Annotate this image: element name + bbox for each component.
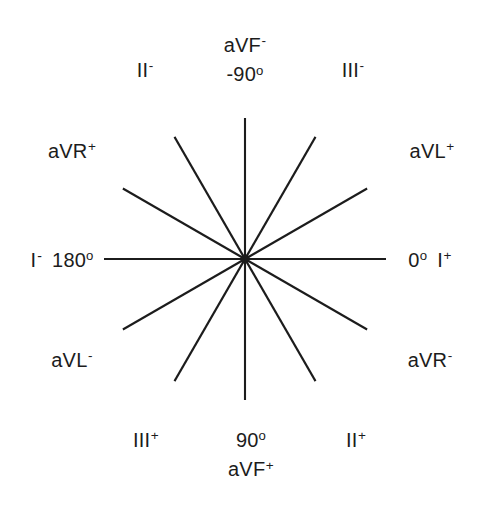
label-ii-positive-lead: II — [346, 429, 358, 451]
label-i-negative-lead: I — [30, 249, 36, 271]
label-avl-negative-sign: - — [87, 348, 92, 363]
label-i-negative-180: I-180o — [30, 249, 93, 271]
label-ii-negative-sign: - — [148, 58, 153, 73]
label-ii-negative-lead: II — [137, 59, 149, 81]
angle-mark-minus90-value: -90 — [226, 64, 256, 86]
label-i-positive-lead: I — [437, 249, 443, 271]
label-iii-negative-sign: - — [359, 58, 364, 73]
label-avl-negative: aVL- — [51, 349, 92, 371]
angle-mark-0-value: 0 — [408, 249, 419, 271]
label-i-positive-sign: + — [443, 248, 452, 263]
label-i-negative: I- — [30, 249, 42, 271]
label-avr-negative-lead: aVR — [408, 349, 448, 371]
angle-mark-minus90-unit: o — [256, 63, 264, 78]
angle-mark-0-unit: o — [420, 248, 428, 263]
label-iii-positive: III+ — [133, 429, 159, 451]
label-avf-negative: aVF- -90o — [224, 34, 267, 86]
label-avr-negative-sign: - — [447, 348, 452, 363]
label-avr-negative: aVR- — [408, 349, 453, 371]
label-avf-positive-lead: aVF — [228, 459, 265, 481]
angle-mark-90-value: 90 — [236, 429, 259, 451]
label-avf-negative-sign: - — [261, 34, 266, 49]
label-avr-positive: aVR+ — [48, 140, 96, 162]
label-iii-negative: III- — [342, 59, 365, 81]
label-avl-positive-lead: aVL — [410, 140, 446, 162]
angle-mark-180: 180o — [52, 249, 94, 271]
label-avf-positive: 90o aVF+ — [228, 429, 274, 481]
origin-point — [241, 255, 250, 264]
label-iii-positive-sign: + — [150, 428, 159, 443]
angle-mark-180-unit: o — [86, 248, 94, 263]
angle-mark-0: 0o — [408, 249, 427, 271]
label-ii-positive-sign: + — [357, 428, 366, 443]
label-avf-positive-sign: + — [265, 458, 274, 473]
label-avr-positive-sign: + — [87, 139, 96, 154]
label-avr-positive-lead: aVR — [48, 140, 88, 162]
label-i-positive: I+ — [437, 249, 451, 271]
label-i-positive-0: 0oI+ — [408, 249, 451, 271]
label-avf-negative-lead: aVF — [224, 34, 261, 56]
hexaxial-reference-diagram: aVF- -90o II- III- aVR+ aVL+ I-180o 0oI+… — [0, 0, 487, 506]
label-iii-positive-lead: III — [133, 429, 150, 451]
angle-mark-90-unit: o — [259, 428, 267, 443]
label-ii-negative: II- — [137, 59, 154, 81]
label-i-negative-sign: - — [36, 247, 42, 263]
label-avl-positive: aVL+ — [410, 140, 455, 162]
label-iii-negative-lead: III — [342, 59, 359, 81]
angle-mark-180-value: 180 — [52, 249, 86, 271]
label-avl-negative-lead: aVL — [51, 349, 87, 371]
label-ii-positive: II+ — [346, 429, 366, 451]
label-avl-positive-sign: + — [446, 139, 455, 154]
